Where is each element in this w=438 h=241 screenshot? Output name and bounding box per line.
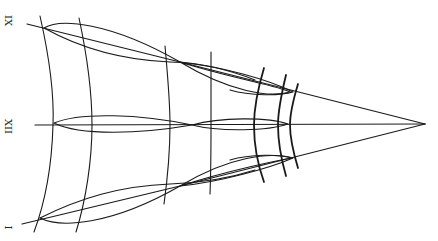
middle-loop-left — [54, 116, 192, 133]
diagram-canvas: IX XII I — [0, 0, 438, 241]
label-middle: XII — [3, 119, 14, 134]
label-top: IX — [3, 15, 14, 26]
meridian-7 — [290, 84, 298, 168]
meridian-1 — [34, 16, 53, 232]
loop-diagram — [0, 0, 438, 241]
ray-top — [27, 24, 425, 124]
label-bottom: I — [3, 226, 14, 230]
ray-middle — [35, 124, 425, 125]
meridian-4 — [210, 52, 211, 194]
